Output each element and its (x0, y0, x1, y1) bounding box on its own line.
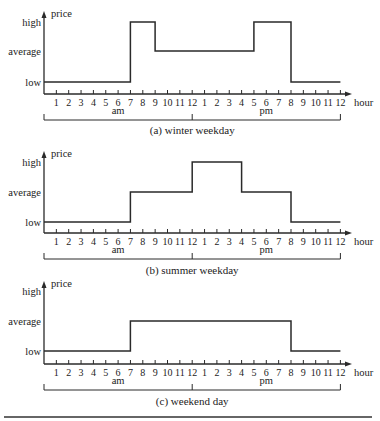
x-tick-label: 10 (311, 367, 321, 378)
x-tick-label: 8 (289, 367, 294, 378)
x-tick-label: 8 (289, 236, 294, 247)
period-label-am: am (112, 375, 125, 386)
period-label-am: am (112, 105, 125, 116)
x-tick-label: 5 (251, 236, 256, 247)
x-tick-label: 10 (311, 236, 321, 247)
x-tick-label: 11 (175, 367, 185, 378)
chart-caption: (b) summer weekday (146, 264, 239, 277)
x-tick-label: 9 (301, 97, 306, 108)
x-tick-label: 4 (91, 97, 96, 108)
x-tick-label: 1 (202, 367, 207, 378)
x-tick-label: 7 (128, 367, 133, 378)
x-tick-label: 11 (175, 97, 185, 108)
x-tick-label: 8 (289, 97, 294, 108)
am-pm-bracket (44, 114, 340, 120)
x-tick-label: 8 (140, 97, 145, 108)
chart-caption: (a) winter weekday (150, 124, 235, 137)
price-step-line (44, 162, 340, 222)
x-tick-label: 9 (301, 367, 306, 378)
y-axis-arrow-icon (42, 151, 47, 158)
x-tick-label: 9 (153, 97, 158, 108)
x-tick-label: 3 (79, 236, 84, 247)
y-axis-title: price (51, 148, 72, 159)
y-level-label-low: low (25, 77, 41, 88)
x-tick-label: 9 (153, 236, 158, 247)
x-tick-label: 12 (187, 236, 197, 247)
am-pm-bracket (44, 253, 340, 259)
period-label-pm: pm (260, 375, 273, 386)
x-tick-label: 2 (66, 367, 71, 378)
x-tick-label: 10 (163, 367, 173, 378)
x-tick-label: 12 (187, 367, 197, 378)
x-tick-label: 4 (239, 367, 244, 378)
price-step-line (44, 321, 340, 351)
y-level-label-high: high (22, 17, 41, 28)
x-tick-label: 10 (311, 97, 321, 108)
x-tick-label: 9 (301, 236, 306, 247)
am-pm-bracket (44, 384, 340, 390)
chart-panel-1: pricehighaveragelow123456789101112123456… (8, 8, 373, 137)
x-tick-label: 7 (128, 97, 133, 108)
x-tick-label: 1 (54, 236, 59, 247)
x-tick-label: 5 (103, 236, 108, 247)
x-tick-label: 5 (251, 97, 256, 108)
x-tick-label: 2 (214, 367, 219, 378)
chart-panel-2: pricehighaveragelow123456789101112123456… (8, 148, 373, 277)
y-level-label-average: average (8, 187, 41, 198)
x-tick-label: 3 (227, 97, 232, 108)
x-axis-arrow-icon (345, 92, 352, 97)
x-tick-label: 1 (202, 97, 207, 108)
x-tick-label: 8 (140, 236, 145, 247)
x-tick-label: 11 (323, 97, 333, 108)
y-axis-title: price (51, 278, 72, 289)
period-label-pm: pm (260, 105, 273, 116)
x-tick-label: 4 (239, 97, 244, 108)
x-axis-arrow-icon (345, 362, 352, 367)
x-tick-label: 3 (227, 367, 232, 378)
x-tick-label: 8 (140, 367, 145, 378)
x-axis-arrow-icon (345, 231, 352, 236)
x-tick-label: 2 (66, 97, 71, 108)
x-tick-label: 5 (103, 97, 108, 108)
x-tick-label: 7 (276, 367, 281, 378)
x-tick-label: 1 (54, 367, 59, 378)
y-level-label-low: low (25, 346, 41, 357)
x-tick-label: 3 (227, 236, 232, 247)
y-level-label-average: average (8, 316, 41, 327)
x-tick-label: 12 (335, 236, 345, 247)
y-level-label-high: high (22, 286, 41, 297)
y-axis-title: price (51, 8, 72, 19)
x-axis-title: hour (354, 97, 374, 108)
x-tick-label: 4 (91, 236, 96, 247)
x-tick-label: 4 (91, 367, 96, 378)
x-tick-label: 1 (202, 236, 207, 247)
x-tick-label: 2 (214, 97, 219, 108)
x-tick-label: 10 (163, 97, 173, 108)
y-level-label-average: average (8, 46, 41, 57)
x-tick-label: 12 (335, 97, 345, 108)
x-tick-label: 12 (187, 97, 197, 108)
chart-caption: (c) weekend day (156, 395, 229, 408)
x-tick-label: 2 (66, 236, 71, 247)
x-tick-label: 7 (276, 236, 281, 247)
x-tick-label: 2 (214, 236, 219, 247)
x-axis-title: hour (354, 236, 374, 247)
x-tick-label: 1 (54, 97, 59, 108)
x-tick-label: 3 (79, 367, 84, 378)
x-tick-label: 7 (128, 236, 133, 247)
y-level-label-high: high (22, 157, 41, 168)
price-step-line (44, 22, 340, 82)
x-axis-title: hour (354, 367, 374, 378)
y-axis-arrow-icon (42, 281, 47, 288)
chart-panel-3: pricehighaveragelow123456789101112123456… (8, 278, 373, 408)
x-tick-label: 4 (239, 236, 244, 247)
x-tick-label: 3 (79, 97, 84, 108)
y-level-label-low: low (25, 217, 41, 228)
x-tick-label: 9 (153, 367, 158, 378)
price-schedule-figure: pricehighaveragelow123456789101112123456… (0, 0, 380, 421)
x-tick-label: 10 (163, 236, 173, 247)
x-tick-label: 12 (335, 367, 345, 378)
period-label-pm: pm (260, 244, 273, 255)
x-tick-label: 11 (323, 236, 333, 247)
y-axis-arrow-icon (42, 11, 47, 18)
